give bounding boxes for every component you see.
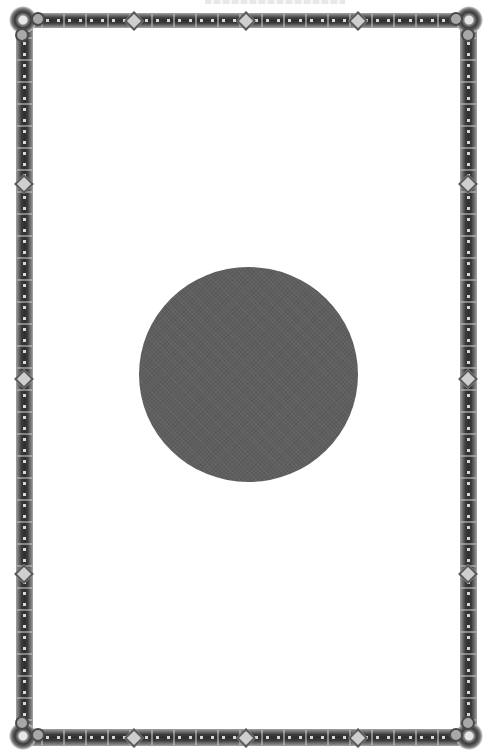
border-knot-icon	[348, 728, 368, 748]
border-left	[16, 26, 33, 732]
bleed-through-text	[205, 0, 345, 4]
border-knot-icon	[348, 11, 368, 31]
border-right	[460, 26, 477, 732]
border-knot-icon	[124, 728, 144, 748]
corner-rosette-icon	[455, 722, 483, 750]
border-knot-icon	[458, 174, 478, 194]
corner-rosette-icon	[9, 6, 37, 34]
border-bottom	[30, 729, 464, 746]
corner-rosette-icon	[9, 722, 37, 750]
border-top	[30, 13, 464, 28]
border-knot-icon	[14, 564, 34, 584]
border-knot-icon	[14, 369, 34, 389]
border-knot-icon	[236, 11, 256, 31]
border-knot-icon	[236, 728, 256, 748]
corner-rosette-icon	[455, 6, 483, 34]
border-knot-icon	[124, 11, 144, 31]
border-knot-icon	[458, 369, 478, 389]
center-disc	[139, 267, 358, 482]
border-knot-icon	[14, 174, 34, 194]
page	[0, 0, 494, 755]
border-knot-icon	[458, 564, 478, 584]
